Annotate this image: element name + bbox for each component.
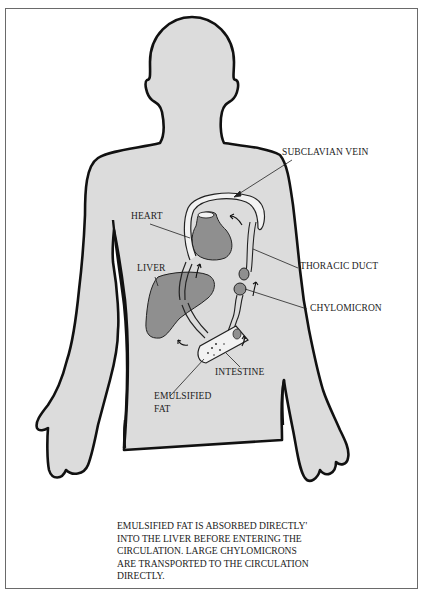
label-subclavian-vein: SUBCLAVIAN VEIN — [282, 147, 368, 158]
caption-line: INTO THE LIVER BEFORE ENTERING THE — [117, 533, 417, 546]
caption-line: CIRCULATION. LARGE CHYLOMICRONS — [117, 545, 417, 558]
label-intestine: INTESTINE — [215, 367, 264, 378]
label-thoracic-duct: THORACIC DUCT — [300, 261, 378, 272]
label-emulsified-fat-line2: FAT — [154, 404, 171, 415]
label-liver: LIVER — [137, 263, 165, 274]
label-emulsified-fat-line1: EMULSIFIED — [154, 391, 211, 402]
caption-line: DIRECTLY. — [117, 570, 417, 583]
body-diagram — [0, 0, 424, 598]
figure-caption: EMULSIFIED FAT IS ABSORBED DIRECTLY' INT… — [117, 520, 417, 583]
caption-line: EMULSIFIED FAT IS ABSORBED DIRECTLY' — [117, 520, 417, 533]
label-heart: HEART — [131, 211, 163, 222]
right-inner-arm-line — [282, 380, 284, 425]
chylomicron-lower — [234, 283, 246, 295]
chylomicron-upper — [239, 268, 249, 280]
caption-line: ARE TRANSPORTED TO THE CIRCULATION — [117, 558, 417, 571]
label-chylomicron: CHYLOMICRON — [310, 303, 382, 314]
